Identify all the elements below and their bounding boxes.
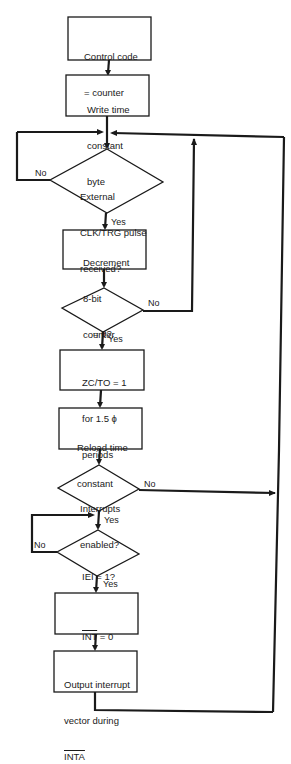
node-text-equals-zero: = 0?	[93, 304, 112, 352]
text-line: Output interrupt	[64, 679, 130, 691]
node-text-int-zero: INT = 0	[82, 607, 113, 655]
text-line: Reload time	[77, 442, 128, 454]
text-line: constant	[87, 140, 130, 152]
text-line: External	[80, 191, 147, 203]
text-line: Decrement	[83, 257, 129, 269]
arrow-right-icon	[269, 490, 276, 496]
edge-label-d1-yes: Yes	[111, 217, 126, 227]
edge-label-d4-yes: Yes	[103, 579, 118, 589]
edge-label-d2-yes: Yes	[108, 334, 123, 344]
node-text-output-vector: Output interrupt vector during INTA	[64, 655, 130, 764]
text-line-inta-overline: INTA	[64, 751, 130, 763]
text-line: Write time	[87, 104, 130, 116]
arrow-up-icon	[191, 138, 197, 145]
text-line: Interrupts	[80, 503, 120, 515]
text-line: Control code	[84, 51, 138, 63]
text-line: ZC/TO = 1	[82, 377, 126, 389]
edge-label-d3-no: No	[144, 479, 156, 489]
edge-label-d4-no: No	[34, 540, 46, 550]
edge-label-d2-no: No	[148, 298, 160, 308]
text-line: vector during	[64, 715, 130, 727]
text-line-int-overline: INT = 0	[82, 631, 113, 643]
edge-label-d3-yes: Yes	[104, 515, 119, 525]
edge-label-d1-no: No	[35, 168, 47, 178]
overline-signal: INT	[82, 631, 97, 642]
